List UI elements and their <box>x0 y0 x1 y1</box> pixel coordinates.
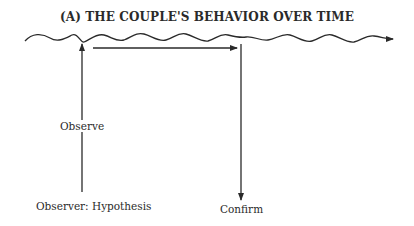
timeline-wavy-arrow <box>25 34 393 43</box>
confirm-label: Confirm <box>220 203 263 215</box>
hypothesis-label: Observer: Hypothesis <box>36 200 151 212</box>
diagram-canvas <box>0 0 414 226</box>
observe-label: Observe <box>60 120 104 132</box>
